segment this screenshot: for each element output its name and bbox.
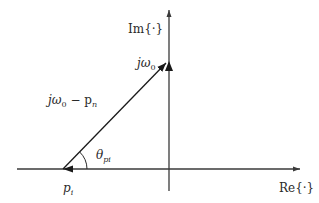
pole-zero-diagram: Im{·} jω0 jω0 − pn θpi pi Re{·} (0, 0, 319, 203)
pole-symbol: p (63, 181, 71, 195)
vector-label-main: jω (48, 93, 62, 107)
imag-axis-label: Im{·} (128, 23, 163, 35)
real-label-main: Re (279, 181, 295, 195)
angle-subscript: pi (103, 155, 111, 164)
angle-label: θpi (96, 149, 111, 164)
vector-label: jω0 − pn (48, 94, 97, 109)
imag-label-main: Im (128, 22, 144, 36)
jw0-arrowhead-icon (165, 61, 173, 71)
real-axis-label: Re{·} (279, 182, 314, 194)
vector-label-rest-sub: n (92, 100, 97, 109)
real-label-arg: {·} (295, 181, 314, 195)
vector-jw0-minus-p (63, 63, 166, 169)
jw0-subscript: 0 (151, 63, 156, 72)
imag-label-arg: {·} (144, 22, 163, 36)
vector-label-rest: − p (67, 93, 92, 107)
pole-label: pi (63, 182, 73, 197)
angle-arc (80, 152, 87, 169)
pole-subscript: i (71, 188, 74, 197)
jw0-symbol: jω (137, 56, 151, 70)
jw0-label: jω0 (137, 57, 156, 72)
